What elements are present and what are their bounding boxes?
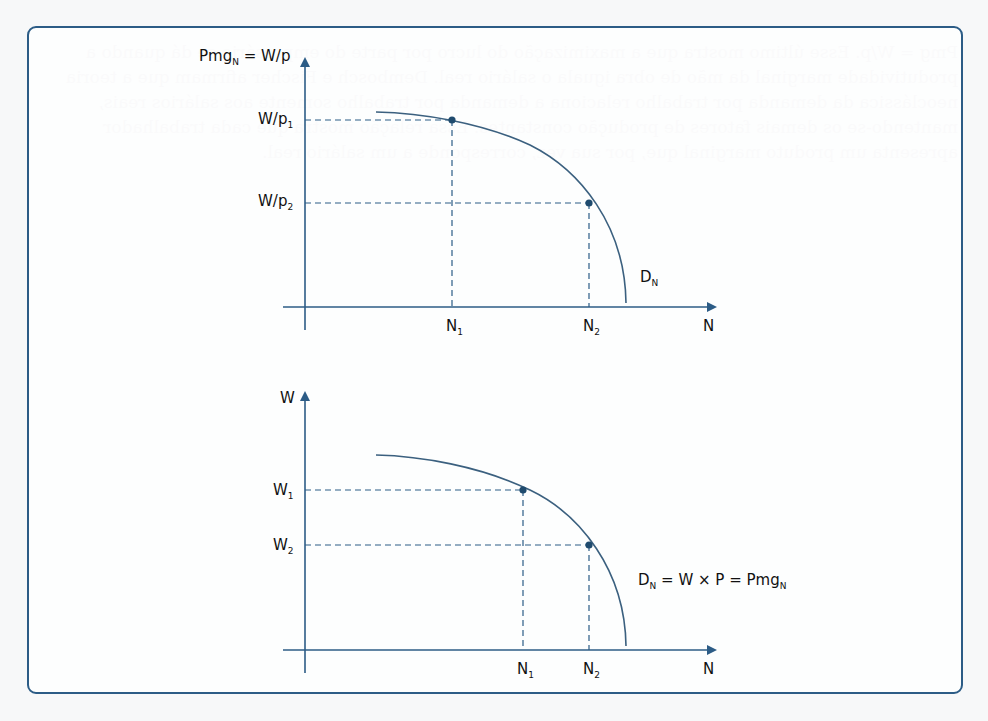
top-y-axis-label: PmgN = W/p: [199, 47, 290, 67]
top-x-tick-1: N1: [446, 317, 463, 337]
top-x-tick-2: N2: [583, 317, 600, 337]
top-y-tick-2: W/p2: [258, 192, 293, 212]
bottom-chart: W W1 W2 N1 N2 N DN = W × P = PmgN: [273, 389, 786, 680]
bottom-y-axis-label: W: [280, 389, 295, 407]
top-x-axis-label: N: [703, 317, 714, 335]
top-chart: PmgN = W/p W/p1 W/p2 N1 N2 N DN: [199, 47, 714, 337]
bottom-y-tick-2: W2: [273, 536, 294, 556]
bottom-x-axis-label: N: [703, 660, 714, 678]
top-point-2: [585, 199, 592, 206]
labor-demand-diagram: PmgN = W/p W/p1 W/p2 N1 N2 N DN W W1 W2 …: [0, 0, 988, 721]
bottom-x-tick-2: N2: [583, 660, 600, 680]
bottom-point-2: [585, 541, 592, 548]
top-curve-label: DN: [640, 268, 658, 288]
bottom-point-1: [519, 486, 526, 493]
bottom-x-tick-1: N1: [517, 660, 534, 680]
top-y-tick-1: W/p1: [258, 110, 293, 130]
top-point-1: [448, 116, 455, 123]
bottom-curve-label: DN = W × P = PmgN: [638, 571, 786, 591]
bottom-y-tick-1: W1: [273, 481, 294, 501]
